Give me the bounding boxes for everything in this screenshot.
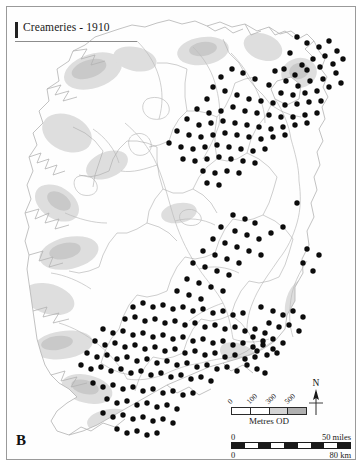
creamery-dot — [218, 74, 223, 79]
creamery-dot — [258, 136, 263, 141]
creamery-dot — [140, 300, 145, 305]
creamery-dot — [186, 132, 191, 137]
page-title: Creameries - 1910 — [23, 21, 110, 33]
creamery-dot — [100, 410, 105, 415]
creamery-dot — [134, 428, 139, 433]
creamery-dot — [200, 336, 205, 341]
creamery-dot — [84, 350, 89, 355]
creamery-dot — [154, 360, 159, 365]
creamery-dot — [232, 324, 237, 329]
creamery-dot — [299, 62, 304, 67]
creamery-dot — [334, 48, 339, 53]
creamery-dot — [212, 252, 217, 257]
creamery-dot — [130, 384, 135, 389]
miles-end-label: 50 miles — [322, 432, 351, 442]
creamery-dot — [162, 348, 167, 353]
creamery-dot — [224, 168, 229, 173]
creamery-dot — [204, 96, 209, 101]
creamery-dot — [134, 358, 139, 363]
creamery-dot — [242, 356, 247, 361]
creamery-dot — [270, 346, 275, 351]
creamery-dot — [244, 362, 249, 367]
creamery-dot — [272, 68, 277, 73]
elevation-tick-100: 100 — [245, 392, 259, 406]
creamery-dot — [252, 160, 257, 165]
creamery-dot — [254, 366, 259, 371]
creamery-dot — [222, 240, 227, 245]
figure-panel: Creameries - 1910 B N 0 100 300 500 Metr… — [0, 0, 363, 467]
creamery-dot — [218, 224, 223, 229]
creamery-dot — [306, 99, 311, 104]
creamery-dot — [294, 101, 299, 106]
creamery-dot — [144, 432, 149, 437]
creamery-dot — [282, 102, 287, 107]
creamery-dot — [166, 140, 171, 145]
creamery-dot — [152, 316, 157, 321]
creamery-dot — [262, 146, 267, 151]
creamery-dot — [214, 268, 219, 273]
creamery-dot — [274, 350, 279, 355]
creamery-dot — [240, 158, 245, 163]
creamery-dot — [236, 170, 241, 175]
creamery-dot — [162, 320, 167, 325]
map-title-block: Creameries - 1910 — [15, 21, 137, 45]
creamery-dot — [246, 134, 251, 139]
creamery-dot — [238, 146, 243, 151]
creamery-dot — [100, 326, 105, 331]
creamery-dot — [150, 418, 155, 423]
creamery-dot — [320, 76, 325, 81]
creamery-dot — [316, 44, 321, 49]
creamery-dot — [174, 288, 179, 293]
creamery-dot — [188, 376, 193, 381]
scale-segment-8 — [324, 443, 337, 448]
creamery-dot — [190, 260, 195, 265]
creamery-dot — [229, 66, 234, 71]
creamery-dot — [122, 316, 127, 321]
title-accent-bar — [15, 22, 18, 38]
creamery-dot — [206, 110, 211, 115]
creamery-dot — [124, 354, 129, 359]
creamery-dot — [242, 108, 247, 113]
creamery-dot — [98, 364, 103, 369]
creamery-dot — [282, 132, 287, 137]
creamery-dot — [254, 110, 259, 115]
creamery-dot — [194, 364, 199, 369]
creamery-dot — [178, 144, 183, 149]
elevation-color-bar — [231, 407, 307, 415]
creamery-dot — [228, 156, 233, 161]
creamery-dot — [208, 378, 213, 383]
title-underline — [15, 41, 137, 42]
creamery-dot — [124, 398, 129, 403]
creamery-dot — [198, 296, 203, 301]
creamery-dot — [290, 308, 295, 313]
creamery-dot — [266, 320, 271, 325]
creamery-dot — [340, 56, 345, 61]
creamery-dot — [222, 130, 227, 135]
creamery-dot — [258, 304, 263, 309]
creamery-dot — [295, 83, 300, 88]
creamery-dot — [202, 144, 207, 149]
creamery-dot — [90, 380, 95, 385]
creamery-dot — [180, 304, 185, 309]
creamery-dot — [252, 76, 257, 81]
creamery-dot — [290, 114, 295, 119]
creamery-dot — [214, 366, 219, 371]
elevation-tick-300: 300 — [264, 392, 278, 406]
scale-segment-4 — [271, 443, 284, 448]
creamery-dot — [104, 352, 109, 357]
panel-letter: B — [16, 432, 26, 449]
elevation-tick-500: 500 — [283, 392, 297, 406]
creamery-dot — [292, 72, 297, 77]
scale-segment-9 — [337, 443, 350, 448]
creamery-dot — [170, 420, 175, 425]
creamery-dot — [210, 340, 215, 345]
creamery-dot — [216, 182, 221, 187]
creamery-dot — [218, 108, 223, 113]
creamery-dot — [304, 67, 309, 72]
creamery-dot — [120, 386, 125, 391]
creamery-dot — [244, 122, 249, 127]
distance-scale-checker — [231, 442, 351, 449]
creamery-dot — [152, 344, 157, 349]
elevation-band-300 — [270, 408, 289, 414]
creamery-dot — [110, 382, 115, 387]
